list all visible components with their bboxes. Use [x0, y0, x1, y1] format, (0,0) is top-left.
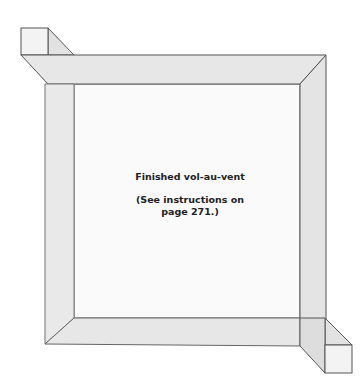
left-band	[45, 84, 74, 344]
instruction-note-line1: (See instructions on	[100, 194, 280, 206]
diagram-title: Finished vol-au-vent	[100, 171, 280, 183]
bottom-right-fold	[300, 318, 352, 373]
right-band	[300, 55, 326, 346]
top-left-fold	[21, 28, 74, 55]
top-band	[21, 55, 326, 84]
bottom-band	[45, 318, 300, 346]
vol-au-vent-diagram	[0, 0, 363, 381]
instruction-note-line2: page 271.)	[100, 206, 280, 218]
